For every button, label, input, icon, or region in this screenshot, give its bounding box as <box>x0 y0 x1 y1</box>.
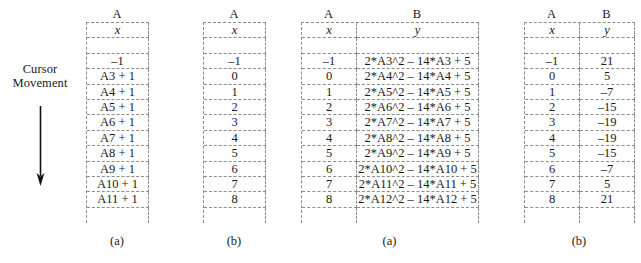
cell[interactable] <box>87 38 149 53</box>
column-header-a[interactable]: A <box>203 8 265 22</box>
cell[interactable]: A10 + 1 <box>87 177 149 192</box>
column-header-a[interactable]: A <box>301 8 356 22</box>
cell[interactable]: 21 <box>580 54 635 69</box>
column-header-row: A <box>203 8 265 22</box>
cell[interactable]: A5 + 1 <box>87 100 149 115</box>
table-row: 82*A12^2 – 14*A12 + 5 <box>302 192 479 207</box>
cell[interactable]: 5 <box>525 146 580 161</box>
cell[interactable]: 2*A12^2 – 14*A12 + 5 <box>357 192 479 207</box>
cell[interactable]: 2*A7^2 – 14*A7 + 5 <box>357 115 479 130</box>
cell[interactable]: –1 <box>302 54 357 69</box>
cell[interactable]: 0 <box>204 69 266 84</box>
spreadsheet-table: ABxy–12*A3^2 – 14*A3 + 502*A4^2 – 14*A4 … <box>301 22 478 223</box>
cell[interactable]: 0 <box>525 69 580 84</box>
cell[interactable]: y <box>580 23 635 38</box>
cursor-movement-label-line2: Movement <box>0 76 80 90</box>
cell[interactable]: 2 <box>525 100 580 115</box>
table-row <box>204 208 266 223</box>
cell[interactable]: A7 + 1 <box>87 131 149 146</box>
cell[interactable]: A4 + 1 <box>87 85 149 100</box>
spreadsheet-table: Ax–1012345678(b) <box>203 22 265 223</box>
cell[interactable]: 2*A8^2 – 14*A8 + 5 <box>357 131 479 146</box>
table-row: 22*A6^2 – 14*A6 + 5 <box>302 100 479 115</box>
cell[interactable]: 2*A10^2 – 14*A10 + 5 <box>357 162 479 177</box>
cell[interactable] <box>357 208 479 223</box>
cell[interactable]: 3 <box>302 115 357 130</box>
column-header-row: AB <box>301 8 478 22</box>
cell[interactable]: 2*A9^2 – 14*A9 + 5 <box>357 146 479 161</box>
column-header-a[interactable]: A <box>86 8 148 22</box>
cell[interactable]: 2*A11^2 – 14*A11 + 5 <box>357 177 479 192</box>
cursor-movement-label-line1: Cursor <box>0 62 80 76</box>
table-row: A9 + 1 <box>87 162 149 177</box>
cell[interactable]: 8 <box>525 192 580 207</box>
cell[interactable]: 1 <box>302 85 357 100</box>
table-row: A4 + 1 <box>87 85 149 100</box>
cell[interactable]: 4 <box>204 131 266 146</box>
cell[interactable]: 3 <box>204 115 266 130</box>
cell[interactable]: –1 <box>87 54 149 69</box>
cell[interactable]: 5 <box>204 146 266 161</box>
cell[interactable] <box>87 208 149 223</box>
cell[interactable]: 3 <box>525 115 580 130</box>
cell[interactable]: 4 <box>302 131 357 146</box>
cell[interactable] <box>525 208 580 223</box>
cell[interactable]: 2 <box>204 100 266 115</box>
cell[interactable]: 1 <box>204 85 266 100</box>
column-header-b[interactable]: B <box>579 8 634 22</box>
cell[interactable]: 4 <box>525 131 580 146</box>
cell[interactable]: 5 <box>580 177 635 192</box>
cell[interactable]: 7 <box>302 177 357 192</box>
cell[interactable]: 5 <box>580 69 635 84</box>
cell[interactable]: 5 <box>302 146 357 161</box>
cell[interactable]: x <box>204 23 266 38</box>
cell[interactable]: –1 <box>204 54 266 69</box>
cell[interactable]: –7 <box>580 162 635 177</box>
cell[interactable]: A3 + 1 <box>87 69 149 84</box>
table-row: A5 + 1 <box>87 100 149 115</box>
cell[interactable]: x <box>87 23 149 38</box>
table-caption: (b) <box>524 234 634 248</box>
cell[interactable]: A11 + 1 <box>87 192 149 207</box>
cell[interactable]: 8 <box>302 192 357 207</box>
cell[interactable]: A6 + 1 <box>87 115 149 130</box>
cell[interactable]: 21 <box>580 192 635 207</box>
cell[interactable]: 6 <box>204 162 266 177</box>
column-header-b[interactable]: B <box>356 8 478 22</box>
cell[interactable] <box>580 38 635 53</box>
cell[interactable]: A9 + 1 <box>87 162 149 177</box>
cell[interactable] <box>580 208 635 223</box>
table-row: A10 + 1 <box>87 177 149 192</box>
cell[interactable] <box>525 38 580 53</box>
cell[interactable] <box>302 38 357 53</box>
cell[interactable]: 6 <box>525 162 580 177</box>
cell[interactable]: 7 <box>204 177 266 192</box>
cell[interactable]: –15 <box>580 100 635 115</box>
cell[interactable]: A8 + 1 <box>87 146 149 161</box>
column-header-a[interactable]: A <box>524 8 579 22</box>
cell[interactable] <box>357 38 479 53</box>
cell[interactable]: 2*A4^2 – 14*A4 + 5 <box>357 69 479 84</box>
cell[interactable]: –15 <box>580 146 635 161</box>
cell[interactable] <box>204 208 266 223</box>
cell[interactable]: –7 <box>580 85 635 100</box>
table-row: 4 <box>204 131 266 146</box>
cell[interactable] <box>204 38 266 53</box>
cell[interactable]: x <box>525 23 580 38</box>
cell[interactable]: 8 <box>204 192 266 207</box>
cell[interactable]: 6 <box>302 162 357 177</box>
cell[interactable]: 2*A5^2 – 14*A5 + 5 <box>357 85 479 100</box>
cell[interactable] <box>302 208 357 223</box>
cell[interactable]: 0 <box>302 69 357 84</box>
cell[interactable]: 2*A3^2 – 14*A3 + 5 <box>357 54 479 69</box>
cell[interactable]: 2 <box>302 100 357 115</box>
cell[interactable]: –19 <box>580 131 635 146</box>
cell[interactable]: 1 <box>525 85 580 100</box>
cell[interactable]: –19 <box>580 115 635 130</box>
cell[interactable]: x <box>302 23 357 38</box>
table-row: 02*A4^2 – 14*A4 + 5 <box>302 69 479 84</box>
cell[interactable]: y <box>357 23 479 38</box>
cell[interactable]: 7 <box>525 177 580 192</box>
cell[interactable]: –1 <box>525 54 580 69</box>
cell[interactable]: 2*A6^2 – 14*A6 + 5 <box>357 100 479 115</box>
